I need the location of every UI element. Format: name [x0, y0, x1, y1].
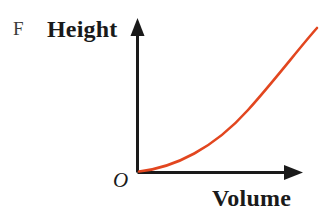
x-axis-label: Volume — [212, 186, 291, 210]
y-axis-arrowhead-icon — [131, 18, 145, 36]
data-series-curve — [139, 28, 317, 172]
figure-part-label: F — [13, 19, 24, 38]
x-axis-arrowhead-icon — [284, 165, 303, 180]
origin-label: O — [113, 170, 128, 191]
figure-container: F Height Volume O — [0, 0, 327, 220]
y-axis-label: Height — [47, 17, 118, 41]
